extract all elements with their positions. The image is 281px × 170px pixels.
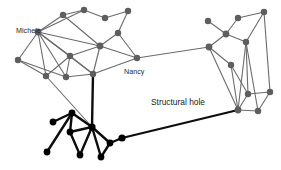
- graph-node: [228, 62, 234, 68]
- graph-edge: [100, 46, 137, 58]
- graph-node: [67, 53, 73, 59]
- graph-node: [261, 9, 267, 15]
- graph-node: [97, 43, 104, 50]
- graph-node: [235, 107, 242, 114]
- label-structural-hole: Structural hole: [151, 97, 205, 107]
- graph-node: [44, 149, 51, 156]
- graph-node: [255, 108, 261, 114]
- graph-edge: [238, 12, 264, 18]
- graph-edge: [93, 46, 100, 74]
- graph-edge: [70, 56, 93, 74]
- graph-edge: [264, 12, 270, 92]
- graph-node: [102, 15, 108, 21]
- graph-node: [115, 30, 121, 36]
- graph-edge: [118, 33, 137, 58]
- graph-node: [88, 123, 95, 130]
- graph-edge: [258, 92, 270, 111]
- graph-node: [77, 152, 84, 159]
- network-graph: MicheleNancyStructural hole: [0, 0, 281, 170]
- graph-node: [206, 44, 213, 51]
- graph-edge: [66, 74, 93, 77]
- graph-edge: [137, 47, 209, 58]
- graph-edge: [246, 12, 264, 42]
- graph-edge: [209, 47, 231, 65]
- graph-node: [43, 73, 49, 79]
- graph-node: [60, 12, 66, 18]
- graph-edge: [18, 32, 38, 60]
- label-nancy: Nancy: [124, 67, 145, 76]
- graph-edge: [63, 10, 84, 15]
- graph-edge: [38, 15, 63, 32]
- graph-node: [107, 140, 114, 147]
- label-michele: Michele: [16, 26, 41, 35]
- graph-edge: [105, 11, 128, 18]
- bridge-edge: [122, 110, 238, 138]
- graph-node: [267, 89, 273, 95]
- graph-node: [67, 129, 74, 136]
- graph-edge: [92, 74, 93, 127]
- edges-layer: [18, 10, 270, 157]
- graph-node: [15, 57, 21, 63]
- graph-edge: [70, 46, 100, 56]
- graph-node: [90, 71, 96, 77]
- graph-edge: [80, 127, 92, 155]
- graph-node: [243, 39, 249, 45]
- graph-edge: [18, 60, 66, 77]
- graph-node: [134, 55, 140, 61]
- graph-node: [63, 74, 69, 80]
- graph-node: [205, 18, 211, 24]
- graph-node: [50, 119, 57, 126]
- graph-edge: [84, 10, 105, 18]
- graph-node: [118, 134, 125, 141]
- network-diagram-canvas: MicheleNancyStructural hole: [0, 0, 281, 170]
- graph-node: [235, 15, 241, 21]
- graph-node: [98, 154, 105, 161]
- graph-node: [69, 110, 76, 117]
- graph-edge: [248, 92, 270, 94]
- graph-edge: [70, 132, 80, 155]
- graph-node: [223, 31, 230, 38]
- graph-edge: [118, 11, 128, 33]
- graph-node: [125, 8, 131, 14]
- graph-node: [81, 7, 87, 13]
- graph-node: [245, 91, 251, 97]
